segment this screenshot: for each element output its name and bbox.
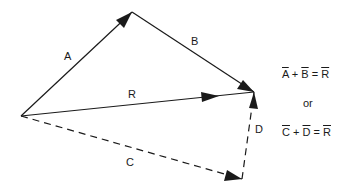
eq1-plus: + <box>292 68 298 80</box>
vector-r-line <box>21 92 254 116</box>
equation-c-plus-d: C + D = R <box>282 126 331 138</box>
vector-a-line <box>21 12 132 116</box>
eq2-plus: + <box>293 126 299 138</box>
vector-b-arrowhead <box>237 80 254 92</box>
vector-c-label: C <box>126 157 134 168</box>
vector-d-arrowhead <box>249 92 258 109</box>
vector-b-line <box>132 12 254 92</box>
vector-r-arrowhead <box>201 92 219 102</box>
vector-d-label: D <box>255 124 263 135</box>
vector-c-line <box>21 116 242 179</box>
vector-c-arrowhead <box>224 170 242 181</box>
equation-a-plus-b: A + B = R <box>282 68 329 80</box>
eq1-term-r: R <box>321 68 329 80</box>
vector-r-label: R <box>128 89 136 100</box>
eq2-term-r: R <box>323 126 331 138</box>
eq1-equals: = <box>312 68 318 80</box>
eq2-term-d: D <box>303 126 311 138</box>
eq2-equals: = <box>314 126 320 138</box>
eq1-term-b: B <box>301 68 308 80</box>
or-text: or <box>303 97 313 109</box>
eq2-term-c: C <box>282 126 290 138</box>
vector-a-label: A <box>64 51 71 62</box>
vector-b-label: B <box>191 36 198 47</box>
eq1-term-a: A <box>282 68 289 80</box>
vector-a-arrowhead <box>116 12 132 28</box>
vector-diagram <box>0 0 353 190</box>
